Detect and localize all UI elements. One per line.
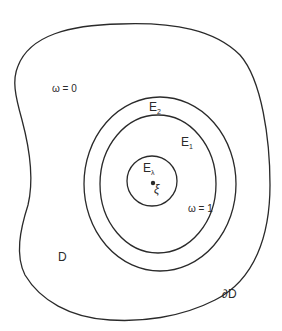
label-domain-d: D <box>58 250 67 264</box>
label-e2-sub: 2 <box>157 108 161 115</box>
label-elambda: Eλ <box>143 161 155 176</box>
region-elambda-boundary <box>127 156 177 206</box>
label-e1-main: E <box>181 135 189 149</box>
label-xi: ξ <box>154 182 160 196</box>
label-omega-zero: ω = 0 <box>52 83 77 94</box>
label-e1-sub: 1 <box>189 143 193 150</box>
region-e2-boundary <box>84 97 236 271</box>
label-e2-main: E <box>149 100 157 114</box>
label-elambda-main: E <box>143 161 151 175</box>
label-e2: E2 <box>149 100 161 115</box>
label-boundary-d: ∂D <box>222 287 237 301</box>
label-e1: E1 <box>181 135 193 150</box>
label-elambda-sub: λ <box>151 169 155 176</box>
label-omega-one: ω = 1 <box>188 203 213 214</box>
domain-diagram: ω = 0 E2 E1 Eλ ξ ω = 1 D ∂D <box>0 0 282 331</box>
